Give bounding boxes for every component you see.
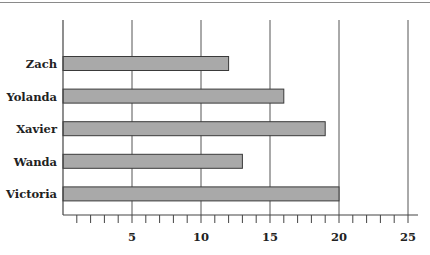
x-tick-label-20: 20 bbox=[331, 230, 347, 244]
x-tick-label-25: 25 bbox=[400, 230, 416, 244]
bar-xavier bbox=[63, 122, 325, 136]
category-label-victoria: Victoria bbox=[5, 187, 58, 201]
category-label-xavier: Xavier bbox=[16, 122, 58, 136]
category-label-wanda: Wanda bbox=[13, 155, 58, 169]
bar-zach bbox=[63, 57, 229, 71]
tick-labels: 510152025 bbox=[128, 230, 416, 244]
x-tick-label-10: 10 bbox=[193, 230, 209, 244]
bar-wanda bbox=[63, 154, 242, 168]
gridlines bbox=[132, 20, 408, 215]
x-tick-label-15: 15 bbox=[262, 230, 278, 244]
x-tick-label-5: 5 bbox=[128, 230, 136, 244]
bar-yolanda bbox=[63, 89, 284, 103]
category-labels: ZachYolandaXavierWandaVictoria bbox=[5, 57, 58, 201]
category-label-yolanda: Yolanda bbox=[5, 90, 57, 104]
bar-victoria bbox=[63, 187, 339, 201]
category-label-zach: Zach bbox=[26, 57, 58, 71]
horizontal-bar-chart: ZachYolandaXavierWandaVictoria 510152025 bbox=[0, 0, 430, 255]
